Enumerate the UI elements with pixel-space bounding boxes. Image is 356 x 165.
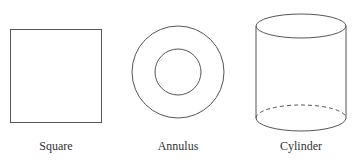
- square-shape: [11, 30, 102, 123]
- annulus-shape: [132, 26, 224, 118]
- square-label: Square: [16, 139, 96, 154]
- annulus-label: Annulus: [138, 139, 218, 154]
- cylinder-shape: [256, 14, 346, 131]
- cylinder-label: Cylinder: [261, 139, 341, 154]
